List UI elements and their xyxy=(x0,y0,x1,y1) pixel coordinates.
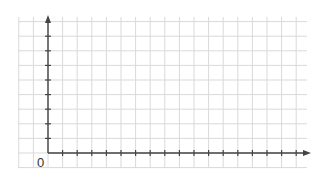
coordinate-grid xyxy=(0,0,329,186)
x-axis-arrow-icon xyxy=(303,150,311,156)
origin-label: 0 xyxy=(37,156,44,169)
grid-lines xyxy=(18,17,307,168)
y-axis-arrow-icon xyxy=(45,15,51,23)
